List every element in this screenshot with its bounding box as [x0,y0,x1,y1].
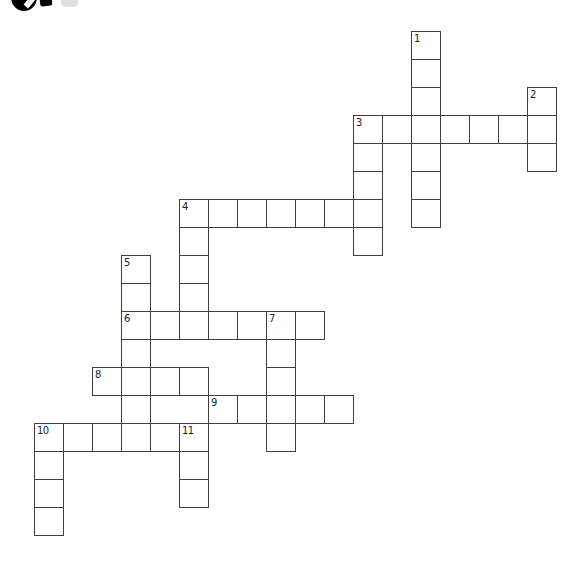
grid-cell[interactable] [237,395,267,424]
cell-number-label: 1 [414,33,420,44]
cell-number-label: 8 [95,369,101,380]
grid-cell[interactable] [527,115,557,144]
grid-cell[interactable] [63,423,93,452]
grid-cell-3[interactable]: 3 [353,115,383,144]
grid-cell[interactable] [179,255,209,284]
grid-cell[interactable] [411,199,441,228]
cell-number-label: 4 [182,201,188,212]
grid-cell[interactable] [353,227,383,256]
cell-number-label: 9 [211,397,217,408]
grid-cell[interactable] [121,423,151,452]
grid-cell[interactable] [179,283,209,312]
grid-cell[interactable] [208,311,238,340]
cell-number-label: 3 [356,117,362,128]
grid-cell[interactable] [353,143,383,172]
cell-number-label: 11 [182,425,194,436]
grid-cell[interactable] [179,367,209,396]
grid-cell[interactable] [295,199,325,228]
grid-cell[interactable] [34,451,64,480]
grid-cell[interactable] [237,311,267,340]
grid-cell[interactable] [150,423,180,452]
grid-cell-1[interactable]: 1 [411,31,441,60]
grid-cell[interactable] [121,395,151,424]
cell-number-label: 7 [269,313,275,324]
grid-cell[interactable] [353,171,383,200]
grid-cell[interactable] [440,115,470,144]
grid-cell-6[interactable]: 6 [121,311,151,340]
grid-cell[interactable] [469,115,499,144]
grid-cell-10[interactable]: 10 [34,423,64,452]
crossword-grid: 1234567891011 [0,0,587,570]
grid-cell[interactable] [411,115,441,144]
grid-cell[interactable] [527,143,557,172]
grid-cell[interactable] [411,59,441,88]
grid-cell[interactable] [208,199,238,228]
grid-cell-8[interactable]: 8 [92,367,122,396]
grid-cell[interactable] [411,87,441,116]
grid-cell[interactable] [179,451,209,480]
grid-cell-9[interactable]: 9 [208,395,238,424]
grid-cell[interactable] [266,423,296,452]
grid-cell-7[interactable]: 7 [266,311,296,340]
grid-cell[interactable] [179,227,209,256]
grid-cell[interactable] [34,479,64,508]
grid-cell-4[interactable]: 4 [179,199,209,228]
cell-number-label: 6 [124,313,130,324]
grid-cell[interactable] [179,311,209,340]
grid-cell[interactable] [324,199,354,228]
grid-cell[interactable] [295,395,325,424]
cell-number-label: 10 [37,425,49,436]
grid-cell[interactable] [121,367,151,396]
grid-cell-2[interactable]: 2 [527,87,557,116]
grid-cell[interactable] [266,395,296,424]
cell-number-label: 5 [124,257,130,268]
page: 1234567891011 [0,0,587,570]
grid-cell[interactable] [150,367,180,396]
grid-cell[interactable] [92,423,122,452]
grid-cell[interactable] [266,199,296,228]
grid-cell[interactable] [150,311,180,340]
grid-cell[interactable] [266,367,296,396]
grid-cell[interactable] [411,171,441,200]
grid-cell[interactable] [295,311,325,340]
grid-cell[interactable] [353,199,383,228]
grid-cell[interactable] [121,283,151,312]
grid-cell[interactable] [34,507,64,536]
cell-number-label: 2 [530,89,536,100]
grid-cell[interactable] [266,339,296,368]
grid-cell-5[interactable]: 5 [121,255,151,284]
grid-cell[interactable] [179,479,209,508]
grid-cell[interactable] [237,199,267,228]
grid-cell[interactable] [382,115,412,144]
grid-cell-11[interactable]: 11 [179,423,209,452]
grid-cell[interactable] [121,339,151,368]
grid-cell[interactable] [411,143,441,172]
grid-cell[interactable] [498,115,528,144]
grid-cell[interactable] [324,395,354,424]
